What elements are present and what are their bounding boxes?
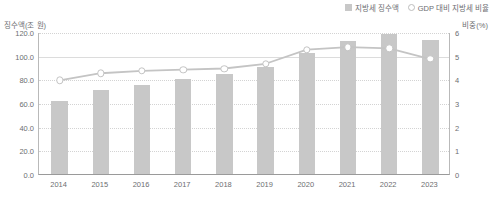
legend-bar-swatch-icon — [345, 4, 352, 11]
y-axis-left-tick-label: 100.0 — [2, 52, 34, 61]
legend-label-line: GDP 대비 지방세 비율 — [418, 2, 489, 13]
x-axis-tick-label: 2023 — [421, 180, 438, 189]
y-axis-right-tick-label: 2 — [455, 123, 485, 132]
x-axis-tick-label: 2016 — [133, 180, 150, 189]
x-axis-tick-label: 2017 — [174, 180, 191, 189]
y-axis-left-tick-label: 80.0 — [2, 76, 34, 85]
y-axis-right-tick-label: 3 — [455, 100, 485, 109]
y-axis-left-tick-label: 120.0 — [2, 29, 34, 38]
x-axis-tick-label: 2019 — [256, 180, 273, 189]
y-axis-left-tick-label: 0.0 — [2, 171, 34, 180]
x-axis-tick-label: 2015 — [91, 180, 108, 189]
y-axis-right-tick-label: 6 — [455, 29, 485, 38]
legend-item-bar: 지방세 징수액 — [345, 2, 399, 13]
x-axis-tick-label: 2014 — [50, 180, 67, 189]
x-axis-tick-label: 2021 — [339, 180, 356, 189]
line-path — [60, 47, 431, 80]
line-series — [39, 33, 451, 175]
y-axis-left-tick-label: 20.0 — [2, 147, 34, 156]
y-axis-right-tick-label: 0 — [455, 171, 485, 180]
chart-legend: 지방세 징수액 GDP 대비 지방세 비율 — [345, 2, 489, 13]
x-axis-tick-label: 2022 — [380, 180, 397, 189]
chart-container: 지방세 징수액 GDP 대비 지방세 비율 징수액(조 원) 비중(%) 0.0… — [0, 0, 495, 202]
y-axis-left-tick-label: 40.0 — [2, 123, 34, 132]
y-axis-right-tick-label: 4 — [455, 76, 485, 85]
x-axis-tick-label: 2020 — [297, 180, 314, 189]
y-axis-right-tick-label: 1 — [455, 147, 485, 156]
plot-area — [38, 33, 450, 175]
x-axis-tick-label: 2018 — [215, 180, 232, 189]
y-axis-left-tick-label: 60.0 — [2, 100, 34, 109]
legend-circle-marker-icon — [408, 4, 415, 11]
y-axis-right-tick-label: 5 — [455, 52, 485, 61]
legend-item-line: GDP 대비 지방세 비율 — [408, 2, 489, 13]
legend-label-bar: 지방세 징수액 — [355, 2, 399, 13]
